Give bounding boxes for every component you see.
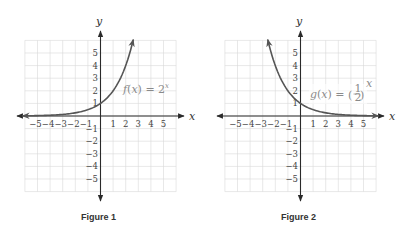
x-axis-label: x <box>189 110 196 123</box>
x-tick-label: −2 <box>267 119 280 129</box>
y-tick-label: 3 <box>293 73 298 83</box>
x-tick-label: 1 <box>310 119 315 129</box>
svg-text:): ) <box>360 89 364 102</box>
y-tick-label: 4 <box>93 61 98 71</box>
y-axis-label: y <box>95 15 103 28</box>
y-tick-label: 2 <box>93 86 98 96</box>
figure-1: x y −5−4−3−2−11234554321−1−2−3−4−5 f(x) … <box>17 15 196 222</box>
x-tick-label: −5 <box>229 119 242 129</box>
x-tick-label: 4 <box>148 119 153 129</box>
y-tick-label: −4 <box>285 161 298 171</box>
x-tick-label: −3 <box>254 119 267 129</box>
curve-g <box>268 40 379 116</box>
y-tick-label: −3 <box>85 149 98 159</box>
x-axis-label: x <box>389 110 396 123</box>
x-tick-label: 3 <box>136 119 141 129</box>
x-tick-label: −4 <box>42 119 55 129</box>
y-tick-label: −3 <box>285 149 298 159</box>
x-tick-label: −3 <box>54 119 67 129</box>
x-tick-label: 4 <box>348 119 353 129</box>
y-tick-label: −4 <box>85 161 98 171</box>
x-tick-label: 2 <box>323 119 328 129</box>
svg-text:g(x) =: g(x) = <box>310 88 345 101</box>
x-tick-label: 2 <box>123 119 128 129</box>
x-tick-label: −5 <box>29 119 42 129</box>
y-tick-label: −5 <box>85 174 98 184</box>
x-tick-label: 5 <box>361 119 366 129</box>
y-tick-label: −1 <box>285 124 298 134</box>
x-tick-label: 5 <box>161 119 166 129</box>
figure-caption: Figure 1 <box>81 212 116 222</box>
y-tick-label: 4 <box>293 61 298 71</box>
y-tick-label: −2 <box>85 136 98 146</box>
y-tick-label: 2 <box>293 86 298 96</box>
y-tick-label: −2 <box>285 136 298 146</box>
figure-caption: Figure 2 <box>281 212 316 222</box>
y-tick-label: −1 <box>85 124 98 134</box>
svg-text:(: ( <box>348 89 352 102</box>
x-tick-label: −4 <box>242 119 255 129</box>
function-label-f: f(x) = 2x <box>122 82 169 96</box>
curve-f <box>22 40 133 116</box>
x-tick-label: 3 <box>336 119 341 129</box>
svg-text:x: x <box>366 77 373 90</box>
y-tick-label: 3 <box>93 73 98 83</box>
figure-2: x y −5−4−3−2−11234554321−1−2−3−4−5 g(x) … <box>217 15 396 222</box>
figures-canvas: x y −5−4−3−2−11234554321−1−2−3−4−5 f(x) … <box>0 0 408 234</box>
x-tick-label: −2 <box>67 119 80 129</box>
y-axis-label: y <box>295 15 303 28</box>
y-tick-label: 5 <box>93 48 98 58</box>
y-tick-label: 5 <box>293 48 298 58</box>
x-tick-label: 1 <box>110 119 115 129</box>
y-tick-label: −5 <box>285 174 298 184</box>
